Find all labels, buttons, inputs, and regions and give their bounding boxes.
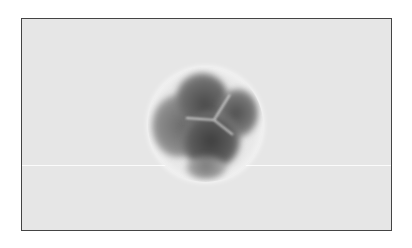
cell-lobe-bottom <box>186 157 226 179</box>
cell-sphere <box>148 67 263 182</box>
image-frame <box>21 18 392 231</box>
